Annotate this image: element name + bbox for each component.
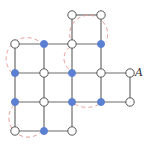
open-node [126,98,134,106]
filled-node [12,70,19,77]
open-node [97,69,105,77]
open-node [68,127,76,135]
open-node [40,98,48,106]
filled-node [98,99,105,106]
arc-bottom [75,104,99,107]
open-node [40,69,48,77]
open-node [68,11,76,19]
open-node [11,40,19,48]
dashed-arcs [6,15,107,137]
filled-node [41,128,48,135]
node-label-a: A [135,66,143,79]
filled-node [69,99,76,106]
filled-node [69,70,76,77]
open-node [126,69,134,77]
filled-node [98,41,105,48]
filled-node [12,99,19,106]
open-node [97,11,105,19]
grid-graph [0,0,148,145]
graph-diagram: A [0,0,148,145]
filled-node [41,41,48,48]
open-node [68,40,76,48]
open-node [11,127,19,135]
arc-mid [64,47,70,70]
